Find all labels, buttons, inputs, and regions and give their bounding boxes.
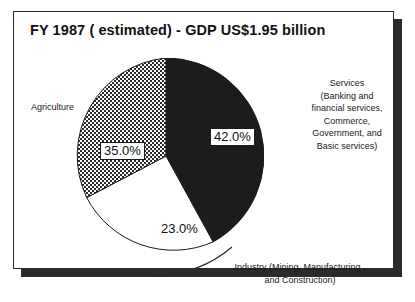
services-label-line-6: Basic services) bbox=[292, 140, 402, 153]
services-label-line-1: Services bbox=[292, 77, 402, 90]
pie-value-industry: 23.0% bbox=[161, 221, 198, 236]
pie-value-services: 42.0% bbox=[210, 128, 255, 146]
industry-label-line-1: Industry (Mining, Manufacturing , bbox=[200, 261, 400, 274]
slice-label-services: Services (Banking and financial services… bbox=[292, 77, 402, 152]
services-label-line-5: Government, and bbox=[292, 127, 402, 140]
services-label-line-2: (Banking and bbox=[292, 90, 402, 103]
chart-panel: FY 1987 ( estimated) - GDP US$1.95 billi… bbox=[13, 11, 394, 269]
services-label-line-4: Commerce, bbox=[292, 115, 402, 128]
chart-title: FY 1987 ( estimated) - GDP US$1.95 billi… bbox=[30, 22, 325, 38]
industry-label-line-2: and Construction) bbox=[200, 274, 400, 287]
slice-label-agriculture: Agriculture bbox=[31, 101, 74, 114]
services-label-line-3: financial services, bbox=[292, 102, 402, 115]
pie-value-agriculture: 35.0% bbox=[100, 142, 145, 160]
slice-label-industry: Industry (Mining, Manufacturing , and Co… bbox=[200, 261, 400, 286]
chart-page: FY 1987 ( estimated) - GDP US$1.95 billi… bbox=[0, 0, 415, 302]
